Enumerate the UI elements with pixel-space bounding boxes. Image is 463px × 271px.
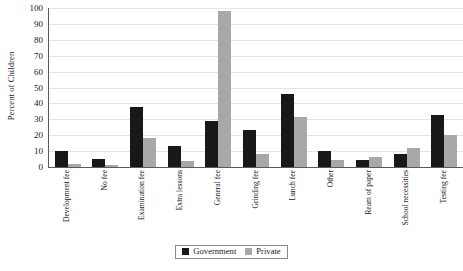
plot-area <box>48 8 463 168</box>
legend-swatch-icon <box>182 248 189 255</box>
y-tick-label: 20 <box>34 131 43 140</box>
bar-private[interactable] <box>444 135 457 167</box>
bar-government[interactable] <box>356 160 369 167</box>
y-tick-label: 50 <box>34 83 43 92</box>
y-tick-label: 40 <box>34 99 43 108</box>
bar-private[interactable] <box>294 117 307 167</box>
y-axis-title: Percent of Children <box>0 0 22 172</box>
x-tick-label: School necessities <box>388 170 426 242</box>
bar-government[interactable] <box>281 94 294 167</box>
x-tick-label-text: Development fee <box>63 170 71 222</box>
x-tick-label-text: Lunch fee <box>289 170 297 201</box>
x-tick-label-text: No fee <box>101 170 109 190</box>
bar-private[interactable] <box>143 138 156 167</box>
bar-group <box>350 8 388 167</box>
bar-private[interactable] <box>181 161 194 167</box>
y-axis-title-text: Percent of Children <box>6 52 16 120</box>
x-tick-label: General fee <box>199 170 237 242</box>
x-tick-label-text: Extra lessons <box>176 170 184 210</box>
bar-private[interactable] <box>369 157 382 167</box>
bar-private[interactable] <box>331 160 344 167</box>
bar-group <box>237 8 275 167</box>
y-tick-label: 70 <box>34 51 43 60</box>
x-tick-label-text: School necessities <box>403 170 411 225</box>
legend-label: Government <box>193 247 236 256</box>
y-tick-label: 90 <box>34 19 43 28</box>
bar-group <box>49 8 87 167</box>
bar-group <box>312 8 350 167</box>
bar-private[interactable] <box>407 148 420 167</box>
bar-government[interactable] <box>318 151 331 167</box>
x-tick-label-text: Testing fee <box>440 170 448 203</box>
bar-government[interactable] <box>394 154 407 167</box>
x-tick-label: Ream of paper <box>350 170 388 242</box>
bar-government[interactable] <box>205 121 218 167</box>
bar-government[interactable] <box>431 115 444 167</box>
x-tick-label: Lunch fee <box>274 170 312 242</box>
y-tick-label: 10 <box>34 147 43 156</box>
bar-group <box>388 8 426 167</box>
y-tick-label: 0 <box>39 163 44 172</box>
legend-label: Private <box>256 247 280 256</box>
bar-group <box>200 8 238 167</box>
x-tick-label: No fee <box>86 170 124 242</box>
bar-government[interactable] <box>130 107 143 167</box>
legend-box: GovernmentPrivate <box>175 245 287 259</box>
bars-layer <box>49 8 463 167</box>
x-axis-tick-labels: Development feeNo feeExamination feeExtr… <box>48 170 463 242</box>
bar-government[interactable] <box>168 146 181 167</box>
x-tick-label-text: Grinding fee <box>252 170 260 209</box>
bar-group <box>124 8 162 167</box>
bar-government[interactable] <box>92 159 105 167</box>
bar-private[interactable] <box>256 154 269 167</box>
bar-group <box>87 8 125 167</box>
bar-private[interactable] <box>68 164 81 167</box>
x-tick-label: Extra lessons <box>161 170 199 242</box>
bar-group <box>162 8 200 167</box>
x-tick-label: Development fee <box>48 170 86 242</box>
y-tick-label: 80 <box>34 35 43 44</box>
x-tick-label: Other <box>312 170 350 242</box>
bar-private[interactable] <box>218 11 231 167</box>
bar-group <box>275 8 313 167</box>
x-tick-label-text: General fee <box>214 170 222 205</box>
x-tick-label-text: Examination fee <box>139 170 147 220</box>
y-axis-tick-labels: 0102030405060708090100 <box>22 8 46 167</box>
plot-area-wrapper: 0102030405060708090100 <box>22 8 463 173</box>
legend-item[interactable]: Private <box>245 247 280 256</box>
y-tick-label: 60 <box>34 67 43 76</box>
y-tick-label: 100 <box>30 4 44 13</box>
y-tick-label: 30 <box>34 115 43 124</box>
x-tick-label-text: Other <box>327 170 335 187</box>
legend: GovernmentPrivate <box>0 245 463 259</box>
legend-swatch-icon <box>245 248 252 255</box>
legend-item[interactable]: Government <box>182 247 236 256</box>
x-tick-label: Testing fee <box>425 170 463 242</box>
x-tick-label: Grinding fee <box>237 170 275 242</box>
bar-private[interactable] <box>105 165 118 167</box>
x-tick-label: Examination fee <box>123 170 161 242</box>
bar-government[interactable] <box>55 151 68 167</box>
bar-government[interactable] <box>243 130 256 167</box>
x-tick-label-text: Ream of paper <box>365 170 373 215</box>
bar-group <box>425 8 463 167</box>
bar-chart: Percent of Children 01020304050607080901… <box>0 0 463 271</box>
